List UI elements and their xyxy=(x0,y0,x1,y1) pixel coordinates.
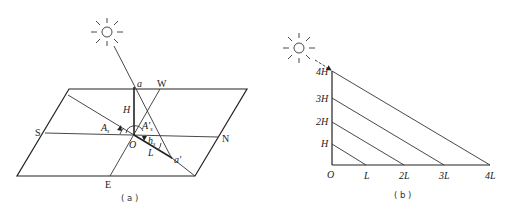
tick-h: H xyxy=(320,138,329,149)
panel-b: 4H 3H 2H H O L 2L 3L 4L ( b ) xyxy=(283,33,496,200)
tick-2l: 2L xyxy=(399,170,410,181)
shadow-line-4 xyxy=(332,71,490,165)
sun-icon xyxy=(91,18,123,46)
west-label: W xyxy=(157,78,167,89)
solar-azimuth-label: As xyxy=(100,122,110,134)
height-label: H xyxy=(122,104,131,115)
east-label: E xyxy=(105,179,111,190)
shadow-length-label: L xyxy=(147,147,154,158)
north-label: N xyxy=(222,133,229,144)
tick-3l: 3L xyxy=(438,170,450,181)
sun-ray xyxy=(114,46,172,159)
west-east-line xyxy=(110,89,160,176)
sun-icon xyxy=(283,33,315,63)
diagram-canvas: a W H S N As A's hs O L a' E ( a ) xyxy=(0,0,507,210)
ground-plane xyxy=(17,89,247,176)
tick-l: L xyxy=(363,170,370,181)
tick-4l: 4L xyxy=(485,170,496,181)
solar-altitude-label: hs xyxy=(148,135,156,147)
origin-label: O xyxy=(327,169,334,180)
tick-2h: 2H xyxy=(316,116,329,127)
shadow-tip-label: a' xyxy=(174,154,182,165)
shadow-line-2 xyxy=(332,122,404,165)
point-a-label: a xyxy=(137,78,142,89)
caption-b: ( b ) xyxy=(394,190,411,200)
tick-4h: 4H xyxy=(316,66,329,77)
tick-3h: 3H xyxy=(315,93,329,104)
panel-a: a W H S N As A's hs O L a' E ( a ) xyxy=(17,18,247,203)
south-label: S xyxy=(35,127,41,138)
shadow-line-1 xyxy=(332,144,366,165)
altitude-arc xyxy=(158,143,161,150)
caption-a: ( a ) xyxy=(121,193,138,203)
origin-label: O xyxy=(129,139,136,150)
shadow-azimuth-label: A's xyxy=(141,120,153,132)
